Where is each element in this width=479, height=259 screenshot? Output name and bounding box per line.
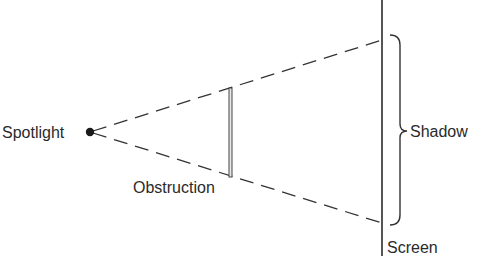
obstruction-bar <box>229 88 232 177</box>
screen-label: Screen <box>387 239 438 256</box>
shadow-diagram: Spotlight Obstruction Shadow Screen <box>0 0 479 259</box>
spotlight-dot-icon <box>86 128 94 136</box>
obstruction-label: Obstruction <box>133 179 215 196</box>
spotlight-label: Spotlight <box>2 124 65 141</box>
upper-light-ray <box>93 40 382 131</box>
shadow-label: Shadow <box>410 123 468 140</box>
shadow-brace-icon <box>390 35 407 225</box>
lower-light-ray <box>93 133 382 223</box>
